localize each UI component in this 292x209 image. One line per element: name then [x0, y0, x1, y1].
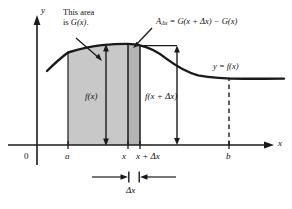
area-callout-line-2: is G(x). — [63, 17, 94, 27]
area-callout-prefix: is — [63, 17, 71, 27]
y-axis-arrowhead — [34, 15, 41, 25]
shaded-area-g-of-x — [68, 44, 128, 145]
height-label-f-of-x-plus-delta-x: f(x + Δx) — [145, 92, 177, 101]
height-label-f-of-x: f(x) — [85, 92, 98, 101]
leader-line-increment-equation — [136, 28, 152, 45]
shaded-strip-delta-area — [128, 44, 140, 145]
area-callout-line-1: This area — [63, 7, 94, 17]
tick-label-a: a — [65, 152, 70, 161]
x-axis-label: x — [278, 139, 282, 148]
curve-label: y = f(x) — [213, 62, 239, 71]
increment-equation: AΔx = G(x + Δx) − G(x) — [156, 17, 237, 26]
height-arrow-f-of-x-plus-delta-x-head-up — [174, 46, 180, 53]
height-arrow-f-of-x-plus-delta-x-head-down — [174, 138, 180, 145]
y-axis-label: y — [41, 6, 45, 15]
figure-graphic — [0, 0, 292, 209]
increment-equation-body: = G(x + Δx) − G(x) — [167, 16, 237, 26]
area-callout: This area is G(x). — [63, 7, 94, 27]
tick-label-x-plus-delta-x: x + Δx — [136, 152, 160, 161]
figure-container: y x 0 a x x + Δx b This area is G(x). AΔ… — [0, 0, 292, 209]
tick-label-x: x — [122, 152, 126, 161]
delta-x-bracket-label: Δx — [126, 186, 135, 195]
origin-label: 0 — [24, 152, 29, 161]
tick-label-b: b — [226, 152, 231, 161]
area-callout-function: G(x) — [71, 17, 87, 27]
x-axis-arrowhead — [264, 142, 274, 149]
area-callout-suffix: . — [86, 17, 88, 27]
delta-x-bracket-left-arrowhead — [121, 174, 129, 180]
